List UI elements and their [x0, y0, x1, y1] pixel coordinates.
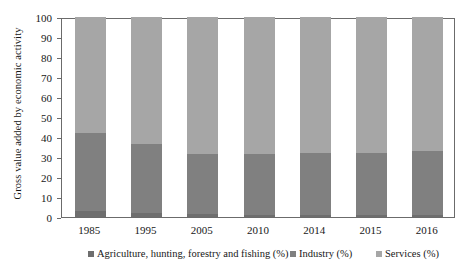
y-axis-tick-label: 60: [41, 93, 52, 104]
bar-segment-industry[interactable]: [356, 153, 387, 215]
bar-segment-agriculture[interactable]: [356, 215, 387, 217]
x-axis-tick-label: 2005: [191, 224, 213, 236]
legend-item[interactable]: Industry (%): [290, 248, 352, 260]
bar-segment-industry[interactable]: [300, 153, 331, 215]
x-axis-tick-label: 2015: [360, 224, 382, 236]
legend-label: Services (%): [385, 248, 439, 260]
y-axis-tick-label: 80: [41, 53, 52, 64]
legend-swatch-icon: [376, 251, 382, 257]
bar-group[interactable]: [131, 17, 162, 217]
legend-swatch-icon: [290, 251, 296, 257]
bar-segment-industry[interactable]: [412, 151, 443, 215]
bar-group[interactable]: [75, 17, 106, 217]
bar-segment-services[interactable]: [356, 17, 387, 153]
x-axis-tick-label: 2016: [416, 224, 438, 236]
chart-legend: Agriculture, hunting, forestry and fishi…: [0, 248, 470, 266]
bar-segment-industry[interactable]: [131, 144, 162, 213]
bar-segment-agriculture[interactable]: [187, 214, 218, 217]
bar-segment-industry[interactable]: [75, 133, 106, 211]
legend-label: Industry (%): [299, 248, 352, 260]
y-axis-tick-label: 100: [36, 13, 53, 24]
y-axis-tick-label: 40: [41, 133, 52, 144]
x-axis-tick-label: 1995: [134, 224, 156, 236]
bar-group[interactable]: [300, 17, 331, 217]
bar-group[interactable]: [244, 17, 275, 217]
y-axis-tick-label: 70: [41, 73, 52, 84]
bar-group[interactable]: [187, 17, 218, 217]
legend-swatch-icon: [88, 251, 94, 257]
legend-label: Agriculture, hunting, forestry and fishi…: [97, 248, 289, 260]
y-axis-tick-label: 20: [41, 173, 52, 184]
y-axis-tick-label: 90: [41, 33, 52, 44]
y-axis-tick-label: 10: [41, 193, 52, 204]
bar-segment-agriculture[interactable]: [131, 213, 162, 217]
bar-segment-agriculture[interactable]: [412, 215, 443, 217]
y-axis-tick-label: 50: [41, 113, 52, 124]
legend-item[interactable]: Services (%): [376, 248, 439, 260]
bar-group[interactable]: [356, 17, 387, 217]
bar-segment-agriculture[interactable]: [75, 211, 106, 217]
bar-segment-services[interactable]: [412, 17, 443, 151]
bar-group[interactable]: [412, 17, 443, 217]
bar-segment-services[interactable]: [187, 17, 218, 154]
x-axis-tick-label: 2014: [303, 224, 325, 236]
stacked-bar-chart: Gross value added by economic activity 0…: [0, 0, 470, 275]
bar-segment-services[interactable]: [131, 17, 162, 144]
x-axis-tick-label: 2010: [247, 224, 269, 236]
y-axis-tick-mark: [57, 218, 61, 219]
bar-segment-industry[interactable]: [187, 154, 218, 214]
bar-segment-services[interactable]: [75, 17, 106, 133]
bar-segment-agriculture[interactable]: [300, 215, 331, 217]
bar-segment-agriculture[interactable]: [244, 215, 275, 217]
plot-area: [61, 18, 455, 218]
x-axis-tick-labels: 1985199520052010201420152016: [0, 222, 470, 242]
legend-item[interactable]: Agriculture, hunting, forestry and fishi…: [88, 248, 289, 260]
y-axis-tick-label: 30: [41, 153, 52, 164]
x-axis-tick-label: 1985: [78, 224, 100, 236]
bar-segment-services[interactable]: [300, 17, 331, 153]
bar-segment-industry[interactable]: [244, 154, 275, 215]
bar-segment-services[interactable]: [244, 17, 275, 154]
